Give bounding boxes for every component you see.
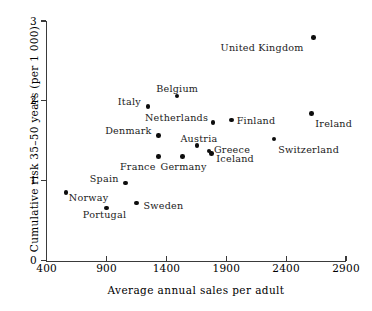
scatter-plot-figure: 0123 4009001400190024002900 NorwayPortug… bbox=[0, 0, 372, 311]
data-point-label: Denmark bbox=[105, 126, 152, 136]
data-point[interactable] bbox=[272, 137, 277, 142]
data-point[interactable] bbox=[311, 35, 316, 40]
x-tick-label: 400 bbox=[24, 263, 70, 274]
data-point[interactable] bbox=[209, 151, 214, 156]
data-point-label: Austria bbox=[180, 134, 217, 144]
x-tick-label: 900 bbox=[84, 263, 130, 274]
x-axis-line bbox=[46, 261, 346, 262]
y-tick-mark bbox=[41, 180, 46, 181]
y-axis-title: Cumulative risk 35–50 years (per 1 000) bbox=[28, 14, 40, 264]
data-point-label: United Kingdom bbox=[221, 43, 304, 53]
x-tick-mark bbox=[226, 256, 227, 261]
data-point[interactable] bbox=[146, 104, 151, 109]
data-point-label: Norway bbox=[69, 193, 109, 203]
x-tick-label: 1900 bbox=[203, 263, 249, 274]
x-tick-label: 2400 bbox=[263, 263, 309, 274]
x-tick-mark bbox=[106, 256, 107, 261]
y-tick-mark bbox=[41, 20, 46, 21]
x-tick-mark bbox=[46, 256, 47, 261]
x-tick-mark bbox=[166, 256, 167, 261]
data-point-label: Finland bbox=[237, 116, 276, 126]
data-point[interactable] bbox=[175, 94, 180, 99]
data-point[interactable] bbox=[134, 201, 139, 206]
data-point-label: Belgium bbox=[156, 84, 198, 94]
data-point[interactable] bbox=[180, 154, 185, 159]
data-point[interactable] bbox=[309, 111, 314, 116]
data-point-label: Germany bbox=[161, 162, 207, 172]
data-point[interactable] bbox=[64, 190, 69, 195]
data-point-label: Ireland bbox=[315, 119, 352, 129]
data-point-label: Portugal bbox=[83, 210, 126, 220]
x-tick-mark bbox=[345, 256, 346, 261]
y-tick-mark bbox=[41, 100, 46, 101]
data-point-label: Iceland bbox=[216, 154, 254, 164]
x-tick-label: 1400 bbox=[143, 263, 189, 274]
data-point[interactable] bbox=[123, 181, 128, 186]
x-tick-mark bbox=[286, 256, 287, 261]
x-axis-title: Average annual sales per adult bbox=[46, 284, 346, 296]
data-point-label: Italy bbox=[118, 97, 141, 107]
data-point-label: Sweden bbox=[143, 201, 183, 211]
data-point[interactable] bbox=[229, 118, 234, 123]
data-point-label: France bbox=[120, 162, 156, 172]
data-point[interactable] bbox=[156, 154, 161, 159]
x-tick-label: 2900 bbox=[323, 263, 369, 274]
data-point-label: Spain bbox=[90, 174, 119, 184]
data-point[interactable] bbox=[211, 120, 216, 125]
data-point-label: Netherlands bbox=[145, 113, 208, 123]
data-point[interactable] bbox=[156, 133, 161, 138]
data-point[interactable] bbox=[195, 143, 200, 148]
data-point-label: Switzerland bbox=[278, 145, 339, 155]
y-axis-line bbox=[46, 21, 47, 262]
